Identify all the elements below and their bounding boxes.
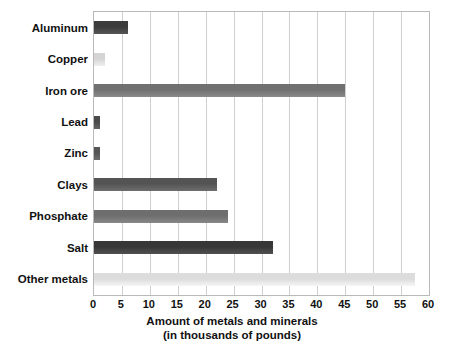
bar-zinc xyxy=(94,147,100,160)
bar-row xyxy=(94,43,429,74)
category-label-lead: Lead xyxy=(0,106,88,137)
category-label-copper: Copper xyxy=(0,43,88,74)
bar-other-metals xyxy=(94,273,415,286)
x-tick-5: 5 xyxy=(118,298,124,310)
bar-salt xyxy=(94,241,273,254)
bar-row xyxy=(94,12,429,43)
x-tick-20: 20 xyxy=(199,298,211,310)
x-tick-15: 15 xyxy=(171,298,183,310)
bar-copper xyxy=(94,53,105,66)
x-tick-45: 45 xyxy=(338,298,350,310)
category-label-iron-ore: Iron ore xyxy=(0,75,88,106)
x-tick-40: 40 xyxy=(310,298,322,310)
bars-layer xyxy=(94,12,429,295)
bar-row xyxy=(94,169,429,200)
bar-row xyxy=(94,232,429,263)
bar-chart: AluminumCopperIron oreLeadZincClaysPhosp… xyxy=(0,0,464,346)
bar-row xyxy=(94,201,429,232)
bar-phosphate xyxy=(94,210,228,223)
bar-clays xyxy=(94,178,217,191)
x-axis-title-line2: (in thousands of pounds) xyxy=(0,328,464,342)
bar-row xyxy=(94,264,429,295)
category-label-clays: Clays xyxy=(0,169,88,200)
x-tick-55: 55 xyxy=(394,298,406,310)
x-tick-50: 50 xyxy=(366,298,378,310)
category-label-other-metals: Other metals xyxy=(0,264,88,295)
x-tick-0: 0 xyxy=(90,298,96,310)
x-tick-60: 60 xyxy=(422,298,434,310)
x-tick-30: 30 xyxy=(254,298,266,310)
bar-lead xyxy=(94,116,100,129)
x-axis-title-line1: Amount of metals and minerals xyxy=(0,314,464,328)
x-tick-10: 10 xyxy=(143,298,155,310)
category-label-phosphate: Phosphate xyxy=(0,201,88,232)
bar-aluminum xyxy=(94,21,128,34)
x-tick-25: 25 xyxy=(226,298,238,310)
bar-iron-ore xyxy=(94,84,345,97)
category-label-salt: Salt xyxy=(0,232,88,263)
bar-row xyxy=(94,75,429,106)
category-label-aluminum: Aluminum xyxy=(0,12,88,43)
x-tick-35: 35 xyxy=(282,298,294,310)
category-label-zinc: Zinc xyxy=(0,138,88,169)
x-axis-title: Amount of metals and minerals (in thousa… xyxy=(0,314,464,342)
bar-row xyxy=(94,106,429,137)
category-axis-labels: AluminumCopperIron oreLeadZincClaysPhosp… xyxy=(0,12,88,295)
x-axis-tick-labels: 051015202530354045505560 xyxy=(93,298,430,314)
bar-row xyxy=(94,138,429,169)
